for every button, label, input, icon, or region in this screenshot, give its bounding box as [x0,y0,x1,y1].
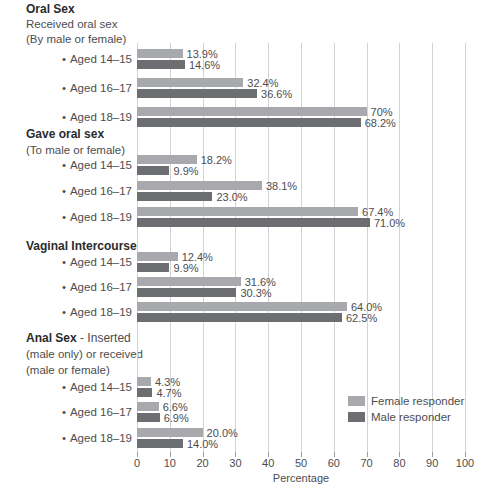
x-tick-label: 80 [393,457,405,469]
group-label: •Aged 14–15 [0,49,132,69]
bullet-icon: • [62,82,66,94]
female-bar-row: 4.3% [137,377,465,386]
x-axis-title: Percentage [137,472,465,484]
section-title-text: Oral Sex [26,2,75,16]
bullet-icon: • [62,211,66,223]
bar-pair: 12.4% 9.9% [137,252,465,274]
female-bar [137,402,159,411]
legend-label-male: Male responder [371,411,451,423]
group-label: •Aged 14–15 [0,252,132,272]
legend-swatch-male [348,412,365,422]
female-bar [137,302,347,311]
group-label-text: Aged 18–19 [70,306,132,318]
female-bar-row: 32.4% [137,78,465,87]
x-tick-label: 70 [360,457,372,469]
female-bar-row: 20.0% [137,428,465,437]
male-bar-value: 6.9% [164,412,189,424]
male-bar [137,192,212,201]
group-label: •Aged 18–19 [0,302,132,322]
male-bar-row: 62.5% [137,313,465,322]
legend-swatch-female [348,396,365,406]
bar-chart-figure: Oral Sex Received oral sex (By male or f… [0,0,490,496]
legend-item-male: Male responder [348,409,464,424]
group-label-text: Aged 14–15 [70,159,132,171]
group-label: •Aged 18–19 [0,207,132,227]
group-label-text: Aged 18–19 [70,211,132,223]
male-bar [137,388,152,397]
bar-pair: 64.0% 62.5% [137,302,465,324]
group-label: •Aged 18–19 [0,428,132,448]
female-bar [137,277,241,286]
male-bar-value: 23.0% [216,191,247,203]
group-label: •Aged 14–15 [0,377,132,397]
female-bar-row: 31.6% [137,277,465,286]
group-label: •Aged 18–19 [0,107,132,127]
female-bar-value: 18.2% [201,154,232,166]
male-bar-value: 30.3% [240,287,271,299]
group-label: •Aged 16–17 [0,78,132,98]
male-bar-row: 14.0% [137,439,465,448]
bar-pair: 20.0% 14.0% [137,428,465,450]
male-bar-row: 30.3% [137,288,465,297]
x-tick-label: 0 [134,457,140,469]
male-bar-row: 9.9% [137,166,465,175]
female-bar [137,107,367,116]
male-bar-row: 14.6% [137,60,465,69]
male-bar-value: 9.9% [173,165,198,177]
group-label: •Aged 16–17 [0,402,132,422]
group-label: •Aged 16–17 [0,277,132,297]
male-bar-row: 71.0% [137,218,465,227]
group-label-text: Aged 14–15 [70,256,132,268]
section-title-oral-sex: Oral Sex [26,2,75,16]
male-bar [137,439,183,448]
bullet-icon: • [62,281,66,293]
x-tick-label: 10 [164,457,176,469]
x-tick-label: 100 [456,457,474,469]
bar-pair: 31.6% 30.3% [137,277,465,299]
female-bar-row: 38.1% [137,181,465,190]
group-label: •Aged 16–17 [0,181,132,201]
bullet-icon: • [62,381,66,393]
female-bar-value: 38.1% [266,180,297,192]
female-bar-row: 12.4% [137,252,465,261]
male-bar-row: 36.6% [137,89,465,98]
legend-item-female: Female responder [348,393,464,408]
bullet-icon: • [62,306,66,318]
female-bar-row: 13.9% [137,49,465,58]
bar-pair: 18.2% 9.9% [137,155,465,177]
bullet-icon: • [62,111,66,123]
female-bar [137,49,183,58]
group-label-text: Aged 18–19 [70,111,132,123]
male-bar-value: 9.9% [173,262,198,274]
bullet-icon: • [62,256,66,268]
bullet-icon: • [62,159,66,171]
x-tick-label: 90 [426,457,438,469]
x-tick-label: 20 [196,457,208,469]
section-title-gave-oral-sex: Gave oral sex [26,127,104,141]
group-label: •Aged 14–15 [0,155,132,175]
plot-area: 13.9% 14.6% 32.4% 36.6% 70% 68.2% 18.2% … [137,43,465,496]
male-bar-row: 9.9% [137,263,465,272]
x-tick-label: 30 [229,457,241,469]
male-bar-value: 4.7% [156,387,181,399]
section-subtitle: (male only) or received [26,347,143,361]
section-title-vaginal-intercourse: Vaginal Intercourse [26,239,137,253]
male-bar-row: 68.2% [137,118,465,127]
male-bar [137,166,169,175]
group-label-text: Aged 14–15 [70,381,132,393]
group-label-text: Aged 14–15 [70,53,132,65]
male-bar [137,413,160,422]
male-bar [137,60,185,69]
group-label-text: Aged 16–17 [70,82,132,94]
section-title-suffix: - Inserted [77,331,131,345]
male-bar-row: 23.0% [137,192,465,201]
x-tick-label: 40 [262,457,274,469]
section-title-text: Vaginal Intercourse [26,239,137,253]
male-bar [137,218,370,227]
male-bar [137,263,169,272]
female-bar [137,207,358,216]
bullet-icon: • [62,406,66,418]
section-subtitle: Received oral sex [26,17,117,31]
female-bar [137,155,197,164]
male-bar-value: 62.5% [346,312,377,324]
